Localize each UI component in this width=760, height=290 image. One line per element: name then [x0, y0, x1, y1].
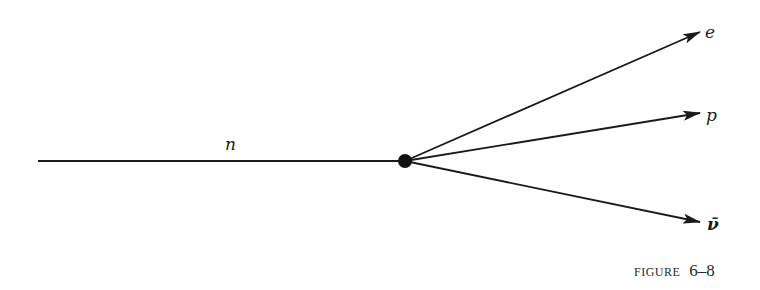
antineutrino-label: ν̄ — [707, 214, 719, 234]
electron-track — [405, 32, 700, 161]
antineutrino-track — [405, 161, 700, 222]
neutron-label: n — [225, 134, 236, 154]
electron-label: e — [705, 22, 715, 42]
figure-caption-prefix: FIGURE — [634, 265, 680, 279]
decay-vertex — [398, 154, 412, 168]
figure-caption: FIGURE 6–8 — [634, 261, 715, 280]
proton-track — [405, 113, 700, 161]
proton-label: p — [706, 105, 717, 125]
beta-decay-diagram: n e p ν̄ FIGURE 6–8 — [0, 0, 760, 290]
figure-caption-number: 6–8 — [689, 261, 715, 280]
